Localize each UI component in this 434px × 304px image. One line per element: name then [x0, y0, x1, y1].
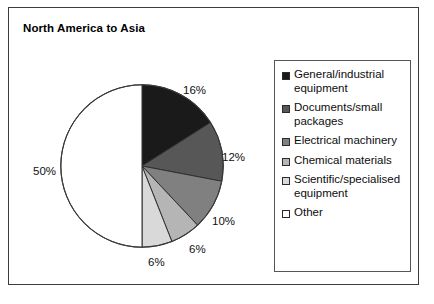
pie-slice: [61, 85, 142, 247]
slice-percentage-label: 6%: [189, 243, 206, 255]
legend-item: General/industrial equipment: [282, 68, 406, 95]
legend-item: Chemical materials: [282, 154, 406, 168]
legend-swatch-icon: [282, 158, 290, 166]
slice-percentage-label: 50%: [33, 165, 56, 177]
slice-percentage-label: 6%: [148, 256, 165, 268]
legend-item: Scientific/specialised equipment: [282, 173, 406, 200]
legend-swatch-icon: [282, 105, 290, 113]
pie-chart-figure: North America to Asia 16%12%10%6%6%50% G…: [0, 0, 434, 304]
legend-swatch-icon: [282, 138, 290, 146]
legend-swatch-icon: [282, 177, 290, 185]
legend-swatch-icon: [282, 210, 290, 218]
legend-item-label: General/industrial equipment: [294, 68, 406, 95]
legend-item: Documents/small packages: [282, 101, 406, 128]
pie-chart-plot: [58, 82, 226, 250]
pie-svg: [58, 82, 226, 250]
legend-item-label: Chemical materials: [294, 154, 392, 168]
legend-item: Electrical machinery: [282, 134, 406, 148]
legend-item-label: Scientific/specialised equipment: [294, 173, 406, 200]
legend-box: General/industrial equipmentDocuments/sm…: [274, 60, 411, 272]
legend-item: Other: [282, 206, 406, 220]
chart-title: North America to Asia: [23, 22, 145, 34]
legend-item-label: Electrical machinery: [294, 134, 397, 148]
legend-item-label: Documents/small packages: [294, 101, 406, 128]
legend-item-label: Other: [294, 206, 323, 220]
slice-percentage-label: 10%: [212, 215, 235, 227]
slice-percentage-label: 12%: [222, 151, 245, 163]
legend-swatch-icon: [282, 72, 290, 80]
legend-list: General/industrial equipmentDocuments/sm…: [282, 68, 406, 226]
slice-percentage-label: 16%: [183, 84, 206, 96]
